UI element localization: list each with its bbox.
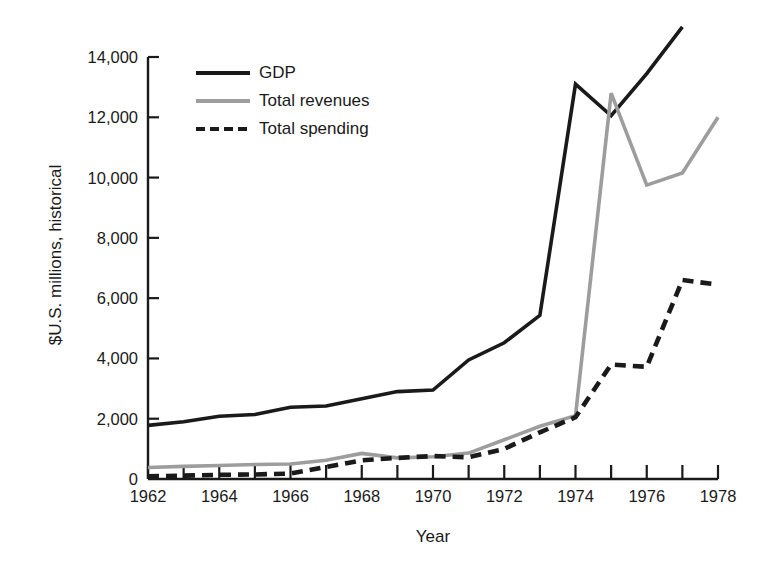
legend-label: GDP xyxy=(259,63,296,83)
legend-swatch-bar xyxy=(196,71,250,75)
x-axis-title: Year xyxy=(148,527,718,547)
legend-label: Total revenues xyxy=(259,91,370,111)
series-line-total-revenues xyxy=(148,93,718,467)
solid-gray-line-icon xyxy=(196,94,250,108)
legend-swatch-bar xyxy=(196,99,250,103)
plot-area xyxy=(0,0,772,568)
x-tick-label: 1966 xyxy=(272,487,309,506)
x-tick-label: 1970 xyxy=(415,487,452,506)
legend-item[interactable]: Total revenues xyxy=(196,90,370,112)
x-tick-label: 1978 xyxy=(700,487,737,506)
legend-swatch-bar xyxy=(196,127,250,131)
x-tick-label: 1976 xyxy=(628,487,665,506)
x-tick-label: 1964 xyxy=(201,487,238,506)
x-tick-label: 1974 xyxy=(557,487,594,506)
x-tick-label: 1972 xyxy=(486,487,523,506)
x-tick-label: 1962 xyxy=(130,487,167,506)
legend-label: Total spending xyxy=(259,119,369,139)
chart-figure: $U.S. millions, historical 02,0004,0006,… xyxy=(0,0,772,568)
legend-item[interactable]: GDP xyxy=(196,62,370,84)
dashed-black-line-icon xyxy=(196,122,250,136)
chart-legend: GDPTotal revenuesTotal spending xyxy=(196,62,370,140)
series-line-total-spending xyxy=(148,280,718,476)
solid-black-line-icon xyxy=(196,66,250,80)
x-tick-label: 1968 xyxy=(343,487,380,506)
x-axis-ticks xyxy=(148,465,718,479)
legend-item[interactable]: Total spending xyxy=(196,118,370,140)
y-axis-ticks xyxy=(148,57,159,419)
